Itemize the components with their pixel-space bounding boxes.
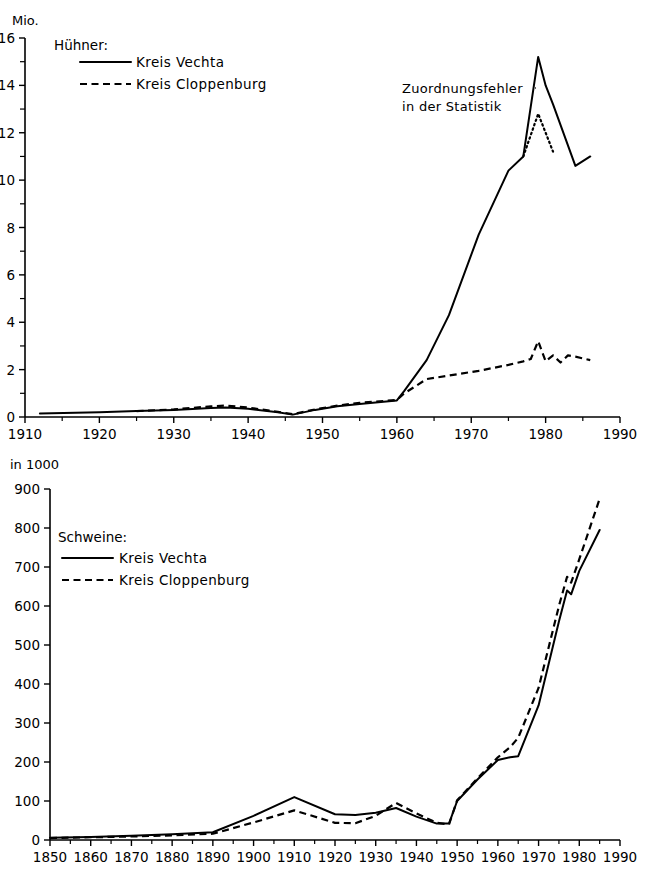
y-tick-label: 700 — [14, 559, 40, 575]
chart-schweine: 0100200300400500600700800900185018601870… — [0, 445, 647, 877]
y-tick-label: 900 — [14, 481, 40, 497]
huehner-y-tick-labels: 0246810121416 — [0, 30, 15, 425]
y-tick-label: 800 — [14, 520, 40, 536]
huehner-axes — [19, 38, 620, 423]
x-tick-label: 1960 — [481, 849, 515, 865]
huehner-legend-title: Hühner: — [54, 37, 108, 53]
x-tick-label: 1870 — [114, 849, 148, 865]
x-tick-label: 1910 — [277, 849, 311, 865]
x-tick-label: 1990 — [603, 426, 637, 442]
y-tick-label: 200 — [14, 754, 40, 770]
chart-huehner: 0246810121416 19101920193019401950196019… — [0, 0, 647, 445]
y-tick-label: 2 — [6, 362, 15, 378]
x-tick-label: 1980 — [528, 426, 562, 442]
y-tick-label: 6 — [6, 267, 15, 283]
x-tick-label: 1940 — [399, 849, 433, 865]
x-tick-label: 1880 — [155, 849, 189, 865]
y-tick-label: 8 — [6, 220, 15, 236]
y-tick-label: 100 — [14, 793, 40, 809]
schweine-legend-title: Schweine: — [58, 529, 127, 545]
annotation-line-2: in der Statistik — [402, 99, 502, 114]
huehner-x-tick-labels: 191019201930194019501960197019801990 — [8, 426, 637, 442]
x-tick-label: 1950 — [305, 426, 339, 442]
x-tick-label: 1930 — [157, 426, 191, 442]
y-tick-label: 12 — [0, 125, 15, 141]
schweine-y-axis-unit-label: in 1000 — [10, 457, 59, 472]
x-tick-label: 1920 — [318, 849, 352, 865]
x-tick-label: 1910 — [8, 426, 42, 442]
schweine-x-tick-labels: 1850186018701880189019001910192019301940… — [33, 849, 637, 865]
x-tick-label: 1860 — [74, 849, 108, 865]
y-tick-label: 14 — [0, 77, 15, 93]
schweine-legend: Schweine: Kreis Vechta Kreis Cloppenburg — [58, 529, 250, 588]
x-tick-label: 1970 — [454, 426, 488, 442]
x-tick-label: 1890 — [196, 849, 230, 865]
figure-root: 0246810121416 19101920193019401950196019… — [0, 0, 647, 877]
schweine-legend-label-cloppenburg: Kreis Cloppenburg — [119, 572, 250, 588]
y-tick-label: 0 — [6, 409, 15, 425]
x-tick-label: 1930 — [359, 849, 393, 865]
x-tick-label: 1980 — [562, 849, 596, 865]
huehner-series-group — [40, 57, 590, 415]
y-tick-label: 16 — [0, 30, 15, 46]
huehner-legend-label-cloppenburg: Kreis Cloppenburg — [136, 76, 267, 92]
y-tick-label: 4 — [6, 314, 15, 330]
schweine-axes — [44, 489, 620, 846]
x-tick-label: 1990 — [603, 849, 637, 865]
x-tick-label: 1900 — [236, 849, 270, 865]
x-tick-label: 1940 — [231, 426, 265, 442]
annotation-line-1: Zuordnungsfehler — [402, 81, 523, 96]
x-tick-label: 1920 — [82, 426, 116, 442]
y-tick-label: 500 — [14, 637, 40, 653]
schweine-y-tick-labels: 0100200300400500600700800900 — [14, 481, 40, 848]
schweine-legend-label-vechta: Kreis Vechta — [119, 550, 207, 566]
y-tick-label: 10 — [0, 172, 15, 188]
y-tick-label: 600 — [14, 598, 40, 614]
y-tick-label: 400 — [14, 676, 40, 692]
huehner-y-axis-unit-label: Mio. — [12, 13, 39, 28]
huehner-legend: Hühner: Kreis Vechta Kreis Cloppenburg — [54, 37, 267, 92]
y-tick-label: 300 — [14, 715, 40, 731]
x-tick-label: 1960 — [380, 426, 414, 442]
y-tick-label: 0 — [31, 832, 40, 848]
huehner-legend-label-vechta: Kreis Vechta — [136, 54, 224, 70]
huehner-annotation: Zuordnungsfehler in der Statistik — [402, 81, 536, 114]
x-tick-label: 1970 — [521, 849, 555, 865]
x-tick-label: 1950 — [440, 849, 474, 865]
x-tick-label: 1850 — [33, 849, 67, 865]
series-path-solid — [40, 57, 590, 415]
